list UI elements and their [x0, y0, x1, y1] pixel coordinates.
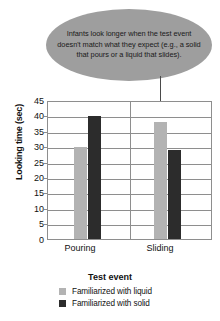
group-divider-line [130, 102, 131, 239]
y-tick-40: 40 [22, 111, 44, 121]
y-tick-10: 10 [22, 204, 44, 214]
legend-swatch-icon-solid [59, 300, 66, 307]
legend-item-solid: Familiarized with solid [0, 299, 220, 308]
y-tick-15: 15 [22, 188, 44, 198]
legend-label-liquid: Familiarized with liquid [72, 287, 152, 296]
annotation-callout: Infants look longer when the test event … [46, 9, 212, 81]
y-tick-45: 45 [22, 96, 44, 106]
y-tick-35: 35 [22, 127, 44, 137]
legend-label-solid: Familiarized with solid [72, 299, 150, 308]
bar-sliding-liquid [154, 122, 167, 239]
chart-legend: Familiarized with liquid Familiarized wi… [0, 287, 220, 311]
y-tick-30: 30 [22, 142, 44, 152]
bar-pouring-solid [88, 116, 101, 239]
y-tick-20: 20 [22, 173, 44, 183]
legend-swatch-icon-liquid [59, 288, 66, 295]
bar-sliding-solid [168, 150, 181, 239]
x-label-sliding: Sliding [120, 243, 200, 253]
y-tick-5: 5 [22, 219, 44, 229]
plot-area [47, 101, 212, 240]
x-label-pouring: Pouring [40, 243, 120, 253]
legend-item-liquid: Familiarized with liquid [0, 287, 220, 296]
y-axis-tick-labels: 45 40 35 30 25 20 15 10 5 0 [22, 96, 44, 245]
y-tick-25: 25 [22, 158, 44, 168]
x-axis-tick-labels: Pouring Sliding [47, 243, 212, 259]
bar-pouring-liquid [74, 147, 87, 239]
chart-figure: Infants look longer when the test event … [0, 0, 220, 321]
x-axis-title: Test event [0, 272, 220, 282]
annotation-text: Infants look longer when the test event … [55, 29, 203, 60]
